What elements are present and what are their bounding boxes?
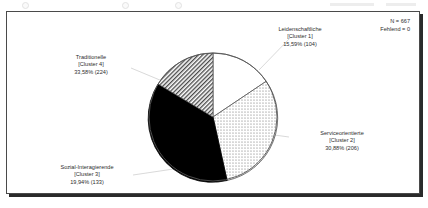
scan-artifacts [0,0,428,10]
slice-label-cluster1-value: 15,59% (104) [257,41,343,48]
slice-label-cluster3: Sozial-Interagierende [Cluster 3] 19,94%… [35,164,139,186]
pie-chart-screenshot: N = 667 Fehlend = 0 [0,0,428,208]
slice-label-cluster1-cluster: [Cluster 1] [257,33,343,40]
slice-label-cluster2: Serviceorientierte [Cluster 2] 30,88% (2… [295,130,389,152]
chart-frame: N = 667 Fehlend = 0 [6,11,420,194]
scan-artifact-bar [386,3,416,6]
scan-artifact-dot [122,2,129,9]
slice-label-cluster4: Traditionelle [Cluster 4] 33,58% (224) [45,54,137,76]
slice-label-cluster2-name: Serviceorientierte [295,130,389,137]
slice-label-cluster4-value: 33,58% (224) [45,69,137,76]
slice-label-cluster3-name: Sozial-Interagierende [35,164,139,171]
slice-label-cluster4-name: Traditionelle [45,54,137,61]
scan-artifact-dot [22,2,29,9]
scan-artifact-bar [330,3,374,6]
slice-label-cluster3-cluster: [Cluster 3] [35,171,139,178]
slice-label-cluster1-name: Leidenschaftliche [257,26,343,33]
slice-label-cluster4-cluster: [Cluster 4] [45,61,137,68]
slice-label-cluster3-value: 19,94% (133) [35,179,139,186]
slice-label-cluster2-cluster: [Cluster 2] [295,137,389,144]
slice-label-cluster2-value: 30,88% (206) [295,145,389,152]
slice-label-cluster1: Leidenschaftliche [Cluster 1] 15,59% (10… [257,26,343,48]
scan-artifact-dot [175,2,182,9]
